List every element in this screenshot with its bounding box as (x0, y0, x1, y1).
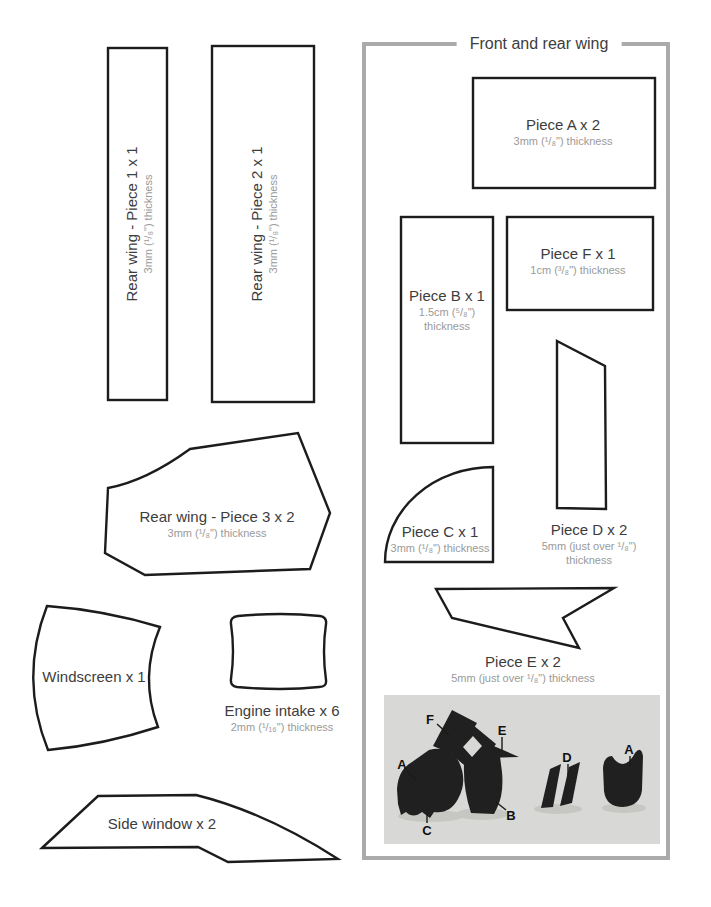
piece-c-label: Piece C x 1 3mm (¹/₈") thickness (391, 522, 490, 555)
rear-wing-piece1-label: Rear wing - Piece 1 x 1 3mm (¹/₈") thick… (122, 146, 155, 301)
piece-a-title: Piece A x 2 (514, 115, 613, 134)
side-window-title: Side window x 2 (108, 814, 216, 833)
photo-label-a-left: A (397, 757, 406, 772)
photo-label-f: F (426, 712, 434, 727)
photo-piece-d1 (541, 764, 561, 808)
windscreen-label: Windscreen x 1 (42, 667, 145, 686)
piece-a-label: Piece A x 2 3mm (¹/₈") thickness (514, 115, 613, 148)
photo-shadow-d (534, 804, 582, 814)
piece-b-thickness-line1: 1.5cm (⁵/₈") (409, 305, 485, 319)
engine-intake-shape (231, 614, 326, 689)
rear-wing-piece3-shape (105, 433, 330, 575)
piece-d-label: Piece D x 2 5mm (just over ¹/₈") thickne… (542, 520, 637, 567)
engine-intake-title: Engine intake x 6 (224, 701, 339, 720)
photo-piece-a-c-assembly (397, 749, 463, 818)
piece-f-thickness: 1cm (³/₈") thickness (530, 263, 625, 277)
rear-wing-piece3-label: Rear wing - Piece 3 x 2 3mm (¹/₈") thick… (139, 507, 294, 540)
rear-wing-piece3-thickness: 3mm (¹/₈") thickness (139, 526, 294, 540)
engine-intake-thickness: 2mm (¹/₁₆") thickness (224, 720, 339, 734)
photo-label-b: B (506, 808, 515, 823)
piece-d-thickness-line1: 5mm (just over ¹/₈") (542, 539, 637, 553)
panel-title: Front and rear wing (457, 35, 622, 53)
piece-b-label: Piece B x 1 1.5cm (⁵/₈") thickness (409, 286, 485, 333)
piece-e-shape (436, 588, 614, 648)
rear-wing-piece2-label: Rear wing - Piece 2 x 1 3mm (¹/₈") thick… (247, 146, 280, 301)
piece-e-label: Piece E x 2 5mm (just over ¹/₈") thickne… (451, 652, 595, 685)
rear-wing-piece1-thickness: 3mm (¹/₈") thickness (141, 146, 155, 301)
piece-c-title: Piece C x 1 (391, 522, 490, 541)
photo-label-a-right: A (624, 742, 633, 757)
rear-wing-piece1-title: Rear wing - Piece 1 x 1 (122, 146, 141, 301)
photo-label-c: C (422, 823, 431, 838)
piece-e-title: Piece E x 2 (451, 652, 595, 671)
rear-wing-piece2-title: Rear wing - Piece 2 x 1 (247, 146, 266, 301)
photo-label-d: D (562, 750, 571, 765)
piece-c-thickness: 3mm (¹/₈") thickness (391, 541, 490, 555)
rear-wing-piece2-thickness: 3mm (¹/₈") thickness (266, 146, 280, 301)
piece-b-title: Piece B x 1 (409, 286, 485, 305)
piece-d-title: Piece D x 2 (542, 520, 637, 539)
side-window-label: Side window x 2 (108, 814, 216, 833)
photo-piece-a-right (603, 750, 643, 807)
rear-wing-piece3-title: Rear wing - Piece 3 x 2 (139, 507, 294, 526)
piece-a-thickness: 3mm (¹/₈") thickness (514, 134, 613, 148)
windscreen-title: Windscreen x 1 (42, 667, 145, 686)
piece-f-title: Piece F x 1 (530, 244, 625, 263)
piece-b-thickness-line2: thickness (409, 319, 485, 333)
photo-piece-d2 (560, 762, 580, 806)
photo-label-e: E (498, 723, 507, 738)
engine-intake-label: Engine intake x 6 2mm (¹/₁₆") thickness (224, 701, 339, 734)
piece-d-shape (557, 341, 606, 509)
template-sheet: Front and rear wing Rear wing - Piece 1 … (0, 0, 711, 907)
piece-f-label: Piece F x 1 1cm (³/₈") thickness (530, 244, 625, 277)
piece-d-thickness-line2: thickness (542, 553, 637, 567)
piece-e-thickness: 5mm (just over ¹/₈") thickness (451, 671, 595, 685)
